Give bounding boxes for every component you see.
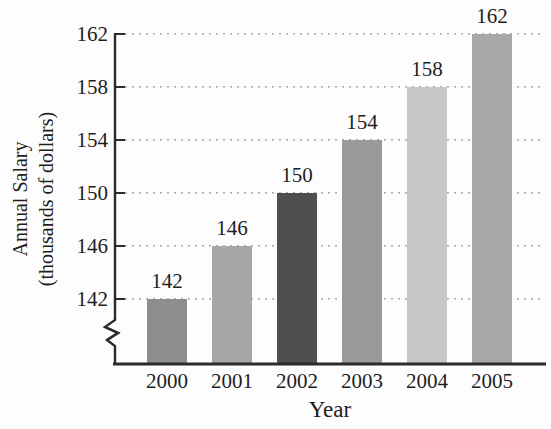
axes: [0, 0, 551, 429]
axis-break-icon: [105, 327, 118, 340]
y-axis-line: [105, 33, 118, 364]
bar-chart-figure: Annual Salary (thousands of dollars) 142…: [0, 0, 551, 429]
x-tick-label-2005: 2005: [450, 368, 534, 394]
x-axis-label: Year: [115, 396, 545, 424]
